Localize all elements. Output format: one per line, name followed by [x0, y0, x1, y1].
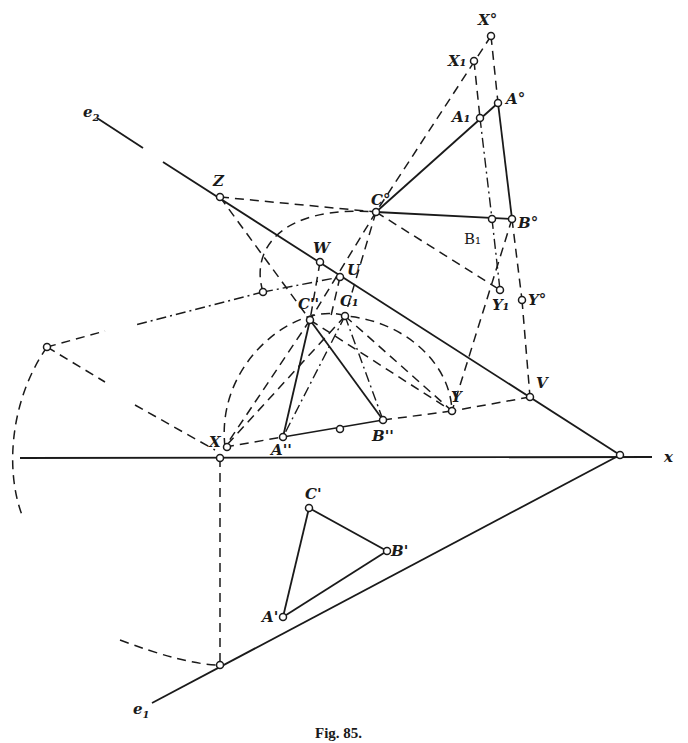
ray-b2-y [383, 411, 452, 420]
edge-a2-b2 [283, 420, 383, 437]
edge-c2-a2 [283, 320, 310, 437]
ray-z-c0 [220, 197, 376, 212]
edge-cp-ap [283, 508, 309, 617]
label-x0: X° [477, 11, 497, 29]
edge-cp-bp [309, 508, 387, 551]
ray-c1-a2 [283, 316, 345, 437]
label-cp: C' [305, 485, 322, 503]
ray-b0-y [452, 219, 512, 411]
label-u: U [347, 261, 361, 279]
ray-c0-y1 [376, 212, 500, 290]
ray-x1-a1 [474, 61, 480, 118]
label-y0: Y° [528, 291, 546, 309]
label-axis-x: x [663, 448, 674, 466]
label-x: X [208, 433, 222, 451]
label-a2: A'' [269, 441, 292, 459]
descriptive-geometry-figure: X° X₁ A₁ A° C° B₁ B° Y₁ Y° Z W U C'' C₁ … [0, 0, 688, 743]
trace-e2 [163, 162, 620, 455]
edge-a0-b0 [498, 103, 512, 219]
label-b1: B₁ [464, 230, 481, 248]
edge-c2-b2 [310, 320, 383, 420]
ray-left-dashdot [135, 292, 263, 325]
ray-y0-v [522, 300, 530, 397]
ray-z-c2 [220, 197, 310, 320]
ray-left-to-x [135, 405, 215, 450]
trace-e2-segment [97, 118, 143, 148]
ray-x0-a0 [491, 36, 498, 103]
ray-v-y [452, 397, 530, 411]
label-b2: B'' [371, 427, 394, 445]
label-y1: Y₁ [492, 296, 509, 314]
ray-c1-b2 [345, 316, 383, 420]
ray-c1-y [345, 316, 452, 411]
label-y: Y [451, 388, 463, 406]
label-a1: A₁ [450, 108, 470, 126]
label-bp: B' [390, 542, 408, 560]
label-x1: X₁ [447, 52, 466, 70]
label-e2: e2 [83, 103, 100, 123]
label-b0: B° [517, 214, 538, 232]
label-e1: e1 [133, 700, 150, 720]
ray-left-up [47, 331, 105, 347]
label-z: Z [212, 172, 225, 190]
ray-a1-b1 [480, 118, 492, 219]
figure-caption: Fig. 85. [315, 725, 362, 741]
ray-left-down [47, 347, 105, 382]
point-markers [44, 33, 624, 669]
edge-ap-bp [283, 551, 387, 617]
ground-line-x [20, 457, 652, 458]
label-c0: C° [371, 191, 390, 209]
label-c2: C'' [298, 295, 319, 313]
arc-bottom [120, 640, 220, 665]
label-c1: C₁ [340, 292, 359, 310]
label-v: V [536, 374, 549, 392]
label-ap: A' [260, 608, 278, 626]
arc-left [13, 347, 47, 515]
ray-c2-x [225, 320, 310, 447]
label-w: W [313, 239, 332, 257]
label-a0: A° [504, 90, 525, 108]
